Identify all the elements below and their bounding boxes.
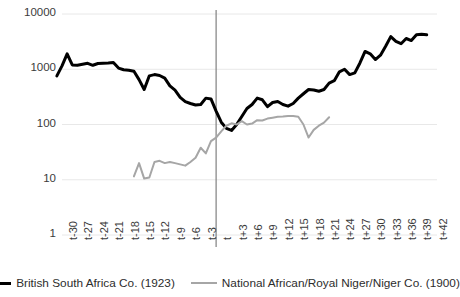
y-tick-label: 1000 <box>30 61 56 73</box>
legend-label-series-b: National African/Royal Niger/Niger Co. (… <box>222 276 460 290</box>
x-tick-label: t+36 <box>406 218 418 240</box>
x-tick-label: t-12 <box>159 221 171 240</box>
x-tick-label: t-3 <box>206 227 218 240</box>
x-tick-label: t-18 <box>129 221 141 240</box>
legend-swatch-icon-series-a <box>0 282 11 285</box>
x-tick-label: t-27 <box>82 221 94 240</box>
x-tick-label: t+30 <box>375 218 387 240</box>
x-tick-label: t <box>221 237 233 240</box>
y-tick-label: 100 <box>37 117 56 129</box>
x-tick-label: t-24 <box>98 221 110 240</box>
x-tick-label: t+6 <box>252 224 264 240</box>
y-tick-label: 1 <box>50 227 56 239</box>
y-tick-label: 10 <box>43 172 56 184</box>
x-tick-label: t+18 <box>314 218 326 240</box>
x-tick-label: t+39 <box>421 218 433 240</box>
x-tick-label: t-15 <box>144 221 156 240</box>
x-tick-label: t+24 <box>344 218 356 240</box>
x-tick-label: t+9 <box>267 224 279 240</box>
x-tick-label: t-30 <box>67 221 79 240</box>
legend-item-series-a: British South Africa Co. (1923) <box>0 276 175 290</box>
x-tick-label: t-9 <box>175 227 187 240</box>
x-tick-label: t+33 <box>391 218 403 240</box>
x-tick-label: t+42 <box>437 218 449 240</box>
x-tick-label: t+12 <box>283 218 295 240</box>
x-tick-label: t+3 <box>237 224 249 240</box>
x-tick-label: t+27 <box>360 218 372 240</box>
y-tick-label: 10000 <box>24 6 56 18</box>
x-tick-label: t+15 <box>298 218 310 240</box>
series-line-b <box>134 116 329 179</box>
x-tick-label: t+21 <box>329 218 341 240</box>
series-line-a <box>57 34 427 130</box>
legend-swatch-icon-series-b <box>191 282 217 284</box>
x-tick-label: t-6 <box>190 227 202 240</box>
x-tick-label: t-21 <box>113 221 125 240</box>
legend-label-series-a: British South Africa Co. (1923) <box>16 276 175 290</box>
legend-item-series-b: National African/Royal Niger/Niger Co. (… <box>191 276 460 290</box>
series-lines <box>57 34 427 178</box>
chart-legend: British South Africa Co. (1923) National… <box>0 272 445 294</box>
